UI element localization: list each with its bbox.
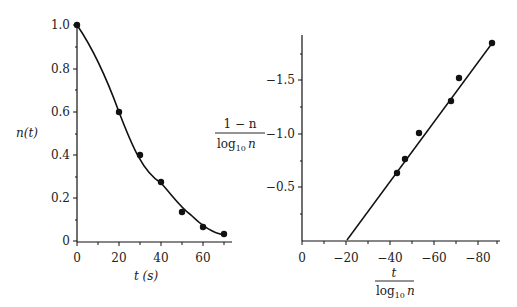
right-ylabel-denominator: log10n bbox=[217, 137, 256, 153]
right-xtick-2: −40 bbox=[377, 251, 402, 265]
left-ytick-0: 0 bbox=[62, 234, 70, 248]
right-fit-line bbox=[347, 42, 493, 240]
left-fit-curve bbox=[77, 25, 224, 235]
left-xtick-3: 60 bbox=[195, 251, 210, 265]
left-data-points bbox=[74, 22, 227, 237]
right-xtick-1: −20 bbox=[333, 251, 358, 265]
left-x-axis-label: t (s) bbox=[134, 269, 158, 283]
left-ytick-3: 0.6 bbox=[51, 105, 70, 119]
right-ytick-0: −0.5 bbox=[266, 180, 295, 194]
left-ytick-4: 0.8 bbox=[51, 62, 70, 76]
left-ytick-1: 0.2 bbox=[51, 191, 70, 205]
right-ytick-1: −1.0 bbox=[266, 127, 295, 141]
left-xtick-2: 40 bbox=[153, 251, 168, 265]
right-xtick-4: −80 bbox=[465, 251, 490, 265]
right-xtick-0: 0 bbox=[298, 251, 306, 265]
left-ytick-2: 0.4 bbox=[51, 148, 70, 162]
right-xtick-3: −60 bbox=[421, 251, 446, 265]
left-ytick-5: 1.0 bbox=[51, 18, 70, 32]
left-x-ticks bbox=[77, 242, 224, 246]
right-y-axis-label: 1 − n log10n bbox=[215, 117, 265, 153]
figure: 0 0.2 0.4 0.6 0.8 1.0 0 20 40 60 t (s) n… bbox=[0, 0, 517, 307]
right-ylabel-numerator: 1 − n bbox=[223, 117, 256, 131]
right-xlabel-numerator: t bbox=[392, 266, 397, 280]
right-ytick-2: −1.5 bbox=[266, 73, 295, 87]
right-x-axis-label: t log10n bbox=[375, 266, 415, 300]
right-xlabel-denominator: log10n bbox=[376, 284, 415, 300]
left-xtick-0: 0 bbox=[73, 251, 81, 265]
right-x-ticks bbox=[302, 241, 497, 245]
right-chart: −0.5 −1.0 −1.5 0 −20 −40 −60 −80 t log10… bbox=[215, 35, 500, 300]
left-y-axis-label: n(t) bbox=[16, 126, 38, 140]
left-xtick-1: 20 bbox=[111, 251, 126, 265]
left-chart: 0 0.2 0.4 0.6 0.8 1.0 0 20 40 60 t (s) n… bbox=[16, 18, 232, 283]
